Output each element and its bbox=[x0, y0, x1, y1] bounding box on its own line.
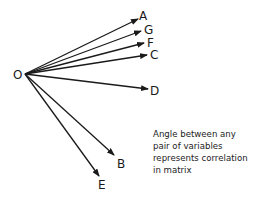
vector-arrow-g bbox=[25, 31, 141, 74]
vector-label-g: G bbox=[144, 24, 153, 36]
origin-label: O bbox=[13, 69, 22, 81]
vector-arrow-b bbox=[25, 74, 114, 155]
annotation-text: Angle between any pair of variables repr… bbox=[153, 128, 251, 176]
annotation-line-3: represents correlation bbox=[153, 152, 251, 164]
annotation-line-2: pair of variables bbox=[153, 140, 251, 152]
vector-arrow-d bbox=[25, 74, 148, 89]
vector-label-e: E bbox=[98, 179, 106, 191]
annotation-line-1: Angle between any bbox=[153, 128, 251, 140]
vector-label-c: C bbox=[150, 49, 158, 61]
vector-label-b: B bbox=[117, 158, 125, 170]
vector-label-a: A bbox=[139, 10, 147, 22]
vector-arrow-e bbox=[25, 74, 99, 176]
vector-arrows bbox=[25, 19, 148, 176]
vector-label-d: D bbox=[150, 85, 159, 97]
annotation-line-4: in matrix bbox=[153, 164, 251, 176]
